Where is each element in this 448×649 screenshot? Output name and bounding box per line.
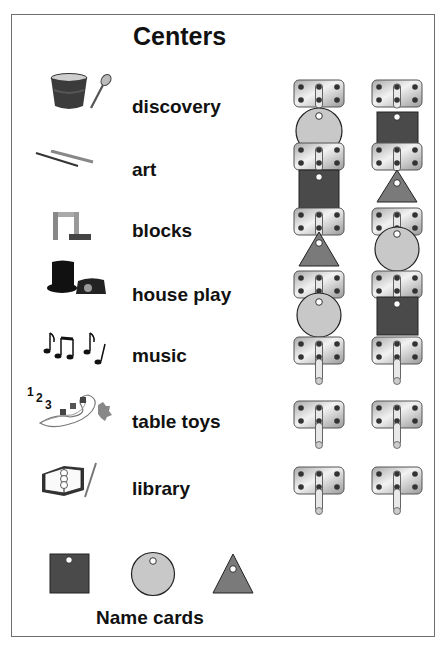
hook-column-1 [294, 80, 344, 515]
triangle-card [299, 232, 339, 266]
hook-board [0, 0, 448, 649]
name-card-triangle [213, 554, 253, 593]
name-cards [50, 553, 253, 596]
name-cards-label: Name cards [96, 607, 204, 629]
hook-column-2 [372, 80, 422, 515]
